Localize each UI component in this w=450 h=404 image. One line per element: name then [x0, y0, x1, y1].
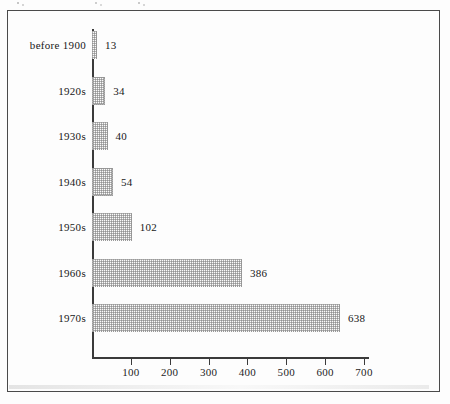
bar — [92, 31, 97, 59]
x-axis-tick-label: 700 — [355, 366, 372, 378]
x-axis-tick — [364, 359, 365, 365]
y-axis-category-label: 1950s — [58, 221, 86, 233]
x-axis-tick-label: 500 — [278, 366, 295, 378]
y-axis-category-label: 1930s — [58, 130, 86, 142]
x-axis-tick — [247, 359, 248, 365]
x-axis-tick — [286, 359, 287, 365]
y-axis-category-label: 1940s — [58, 176, 86, 188]
x-axis-line — [92, 357, 369, 359]
bar — [92, 168, 113, 196]
x-axis-tick-label: 600 — [316, 366, 333, 378]
figure: 10020030040050060070013before 1900341920… — [0, 0, 450, 404]
bar-value-label: 34 — [113, 85, 125, 97]
bar-value-label: 386 — [250, 267, 267, 279]
x-axis-tick — [209, 359, 210, 365]
bar-row: 13 — [92, 31, 157, 59]
x-axis-tick — [325, 359, 326, 365]
x-axis-tick-label: 400 — [239, 366, 256, 378]
bar-value-label: 54 — [121, 176, 133, 188]
bar-row: 386 — [92, 259, 302, 287]
x-axis-tick — [170, 359, 171, 365]
bar-value-label: 40 — [116, 130, 128, 142]
bar-value-label: 102 — [140, 221, 157, 233]
y-axis-category-label: 1920s — [58, 85, 86, 97]
x-axis-tick-label: 200 — [161, 366, 178, 378]
y-axis-category-label: 1970s — [58, 312, 86, 324]
bar — [92, 259, 242, 287]
bar-row: 34 — [92, 77, 165, 105]
x-axis-tick-label: 100 — [122, 366, 139, 378]
bar — [92, 77, 105, 105]
x-axis-tick-label: 300 — [200, 366, 217, 378]
y-axis-category-label: before 1900 — [30, 39, 86, 51]
plot-area: 10020030040050060070013before 1900341920… — [0, 0, 450, 404]
bar-row: 54 — [92, 168, 173, 196]
bar-value-label: 638 — [348, 312, 365, 324]
bar-row: 102 — [92, 213, 192, 241]
bar-row: 40 — [92, 122, 168, 150]
bar-value-label: 13 — [105, 39, 117, 51]
y-axis-category-label: 1960s — [58, 267, 86, 279]
x-axis-tick — [131, 359, 132, 365]
bar-row: 638 — [92, 304, 400, 332]
bar — [92, 304, 340, 332]
bar — [92, 213, 132, 241]
bar — [92, 122, 108, 150]
